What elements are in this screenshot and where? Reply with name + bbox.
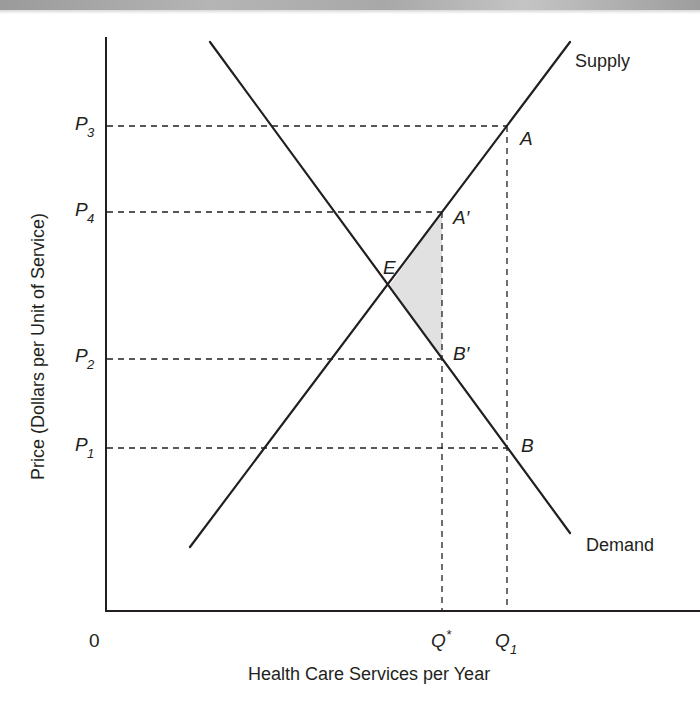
point-e-label: E xyxy=(383,257,396,278)
demand-label: Demand xyxy=(586,535,654,555)
tick-p1: P 1 xyxy=(75,434,94,461)
point-b-label: B xyxy=(521,435,534,456)
supply-demand-diagram: Supply Demand E A A′ B′ B P 3 P 4 P 2 P … xyxy=(0,0,700,720)
x-axis-title: Health Care Services per Year xyxy=(248,664,490,684)
supply-curve xyxy=(190,42,570,547)
svg-text:4: 4 xyxy=(87,211,94,226)
svg-text:Q: Q xyxy=(431,630,446,651)
point-a-label: A xyxy=(519,128,533,149)
demand-curve xyxy=(210,42,570,533)
svg-text:1: 1 xyxy=(510,642,517,657)
tick-p3: P 3 xyxy=(75,113,95,140)
tick-p4: P 4 xyxy=(75,199,94,226)
point-b-prime-label: B′ xyxy=(453,343,471,364)
svg-text:1: 1 xyxy=(87,446,94,461)
tick-p2: P 2 xyxy=(75,345,95,372)
y-axis-title: Price (Dollars per Unit of Service) xyxy=(28,213,48,480)
tick-q-star: Q * xyxy=(431,627,452,651)
svg-text:Q: Q xyxy=(495,630,510,651)
svg-text:3: 3 xyxy=(87,125,95,140)
point-a-prime-label: A′ xyxy=(452,207,471,228)
origin-label: 0 xyxy=(89,630,100,651)
deadweight-loss-triangle xyxy=(390,212,442,359)
supply-label: Supply xyxy=(575,51,630,71)
tick-q1: Q 1 xyxy=(495,630,517,657)
svg-text:*: * xyxy=(446,627,452,642)
svg-text:2: 2 xyxy=(86,357,95,372)
